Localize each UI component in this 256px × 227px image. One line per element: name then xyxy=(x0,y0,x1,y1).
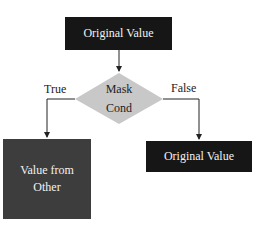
false-edge-label: False xyxy=(171,81,196,96)
condition-label-line1: Mask xyxy=(89,80,149,99)
arrow-head-false xyxy=(196,134,202,140)
arrow-head-true xyxy=(44,132,50,138)
value-from-other-node: Value from Other xyxy=(3,139,91,219)
original-value-false-node: Original Value xyxy=(146,141,252,172)
original-value-top-node: Original Value xyxy=(65,17,172,50)
original-value-false-label: Original Value xyxy=(164,148,234,165)
value-from-other-line2: Other xyxy=(33,179,60,196)
arrow-head-top xyxy=(116,66,122,72)
value-from-other-line1: Value from xyxy=(20,162,74,179)
true-branch-line xyxy=(47,99,75,137)
false-branch-line xyxy=(163,99,199,139)
condition-label-line2: Cond xyxy=(89,99,149,118)
condition-label: Mask Cond xyxy=(89,80,149,118)
true-edge-label: True xyxy=(44,82,66,97)
original-value-top-label: Original Value xyxy=(83,25,153,42)
